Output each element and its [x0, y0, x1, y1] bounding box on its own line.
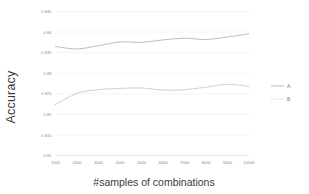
x-axis-tick-labels: 1000200030004000500060007000800090001000…: [51, 160, 255, 165]
y-tick-label: 0.845: [41, 9, 52, 14]
x-tick-label: 5000: [137, 160, 147, 165]
x-tick-label: 7000: [180, 160, 190, 165]
x-axis-title: #samples of combinations: [93, 176, 214, 188]
y-tick-label: 0.815: [41, 133, 52, 138]
y-tick-label: 0.825: [41, 91, 52, 96]
series-line-b: [56, 84, 250, 104]
line-chart: 0.810.8150.820.8250.830.8350.840.845 100…: [0, 0, 309, 194]
x-tick-label: 10000: [243, 160, 255, 165]
series-line-a: [56, 34, 250, 49]
x-tick-label: 9000: [223, 160, 233, 165]
x-tick-label: 2000: [72, 160, 82, 165]
x-tick-label: 6000: [158, 160, 168, 165]
y-tick-label: 0.835: [41, 50, 52, 55]
x-tick-label: 3000: [94, 160, 104, 165]
y-tick-label: 0.81: [44, 153, 53, 158]
y-tick-label: 0.84: [44, 30, 53, 35]
y-tick-label: 0.82: [44, 112, 53, 117]
legend: AB: [271, 83, 291, 102]
x-tick-label: 8000: [201, 160, 211, 165]
chart-figure: 0.810.8150.820.8250.830.8350.840.845 100…: [0, 0, 309, 194]
legend-label-a: A: [287, 83, 291, 89]
x-tick-label: 4000: [115, 160, 125, 165]
gridlines: [56, 12, 250, 156]
y-tick-label: 0.83: [44, 71, 53, 76]
legend-label-b: B: [287, 96, 291, 102]
y-axis-title: Accuracy: [4, 70, 18, 124]
x-tick-label: 1000: [51, 160, 61, 165]
y-axis-tick-labels: 0.810.8150.820.8250.830.8350.840.845: [41, 9, 52, 158]
